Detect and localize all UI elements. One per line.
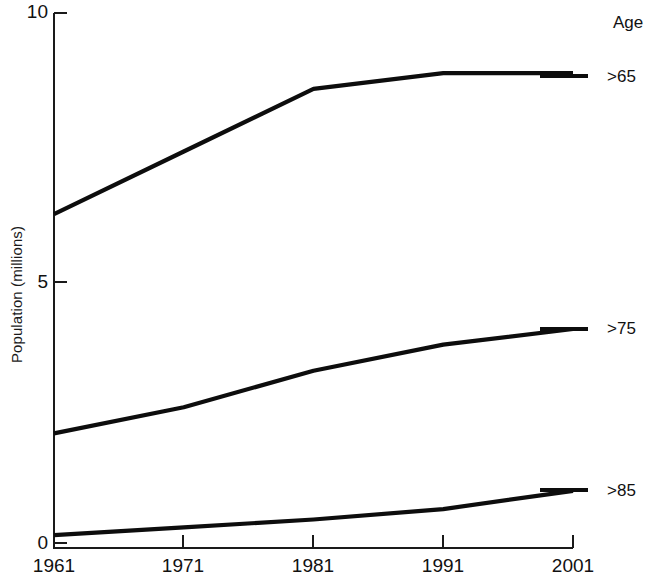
series-line-over-85 bbox=[54, 491, 573, 535]
chart-plot-area bbox=[0, 0, 656, 585]
axis-lines bbox=[54, 13, 573, 548]
series-line-over-75 bbox=[54, 329, 573, 433]
series-line-over-65 bbox=[54, 73, 573, 214]
chart-container: Population (millions) 10 5 0 1961 1971 1… bbox=[0, 0, 656, 585]
